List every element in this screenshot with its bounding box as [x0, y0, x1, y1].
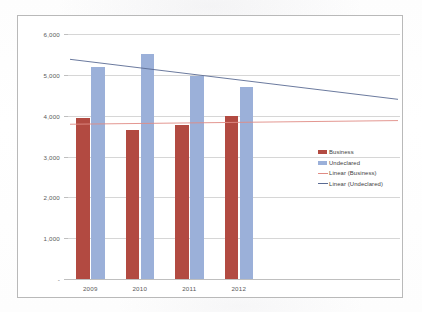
legend-item: Linear (Business)	[318, 168, 404, 179]
legend-item: Undeclared	[318, 158, 404, 169]
bar-business-2009	[76, 118, 90, 279]
legend-label: Linear (Undeclared)	[329, 181, 383, 187]
trendline-linear-undeclared	[70, 59, 398, 99]
x-axis-label-2011: 2011	[169, 285, 210, 292]
legend-swatch-icon	[318, 150, 327, 154]
bar-undeclared-2012	[240, 87, 254, 279]
y-tickmark-3000	[64, 157, 68, 158]
x-axis-label-2012: 2012	[219, 285, 260, 292]
y-tick-label: 2,000	[20, 194, 60, 201]
legend-label: Linear (Business)	[329, 170, 377, 176]
y-tick-label: 4,000	[20, 112, 60, 119]
y-tickmark-4000	[64, 116, 68, 117]
y-tick-label: 3,000	[20, 153, 60, 160]
legend-swatch-icon	[318, 173, 328, 174]
bar-undeclared-2009	[91, 67, 105, 279]
y-tick-label: 6,000	[20, 31, 60, 38]
chart-frame: -1,0002,0003,0004,0005,0006,000 20092010…	[17, 15, 403, 298]
gridline-5000	[68, 75, 400, 76]
chart-legend: BusinessUndeclaredLinear (Business)Linea…	[318, 147, 404, 189]
y-tickmark-6000	[64, 34, 68, 35]
gridline-6000	[68, 34, 400, 35]
bar-business-2011	[175, 125, 189, 279]
x-axis-label-2010: 2010	[120, 285, 161, 292]
y-tickmark-0	[64, 279, 68, 280]
y-tick-label: -	[20, 276, 60, 283]
legend-label: Undeclared	[329, 160, 360, 166]
x-axis-labels: 2009201020112012	[68, 281, 400, 295]
legend-item: Business	[318, 147, 404, 158]
bar-undeclared-2010	[141, 54, 155, 279]
y-tick-label: 1,000	[20, 235, 60, 242]
legend-label: Business	[329, 149, 354, 155]
bar-business-2012	[225, 116, 239, 279]
x-axis-label-2009: 2009	[70, 285, 111, 292]
y-tickmark-1000	[64, 238, 68, 239]
y-tickmark-5000	[64, 75, 68, 76]
legend-swatch-icon	[318, 161, 327, 165]
legend-item: Linear (Undeclared)	[318, 179, 404, 190]
gridline-0	[68, 279, 400, 280]
y-tick-label: 5,000	[20, 71, 60, 78]
y-tickmark-2000	[64, 197, 68, 198]
legend-swatch-icon	[318, 183, 328, 184]
bar-business-2010	[126, 130, 140, 279]
bar-undeclared-2011	[190, 76, 204, 279]
